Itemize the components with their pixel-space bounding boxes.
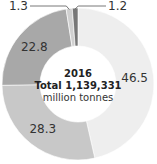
leader-line-3: [30, 6, 69, 10]
slice-label-1: 28.3: [29, 122, 56, 136]
slice-label-2: 22.8: [21, 40, 48, 54]
slice-label-3: 1.3: [9, 0, 28, 13]
slice-label-0: 46.5: [121, 71, 148, 85]
center-unit: million tonnes: [43, 92, 114, 103]
center-year: 2016: [64, 68, 92, 79]
center-total: Total 1,139,331: [34, 80, 121, 91]
slice-label-4: 1.2: [108, 0, 127, 13]
donut-chart: 46.528.322.81.31.2 2016 Total 1,139,331 …: [0, 0, 157, 164]
